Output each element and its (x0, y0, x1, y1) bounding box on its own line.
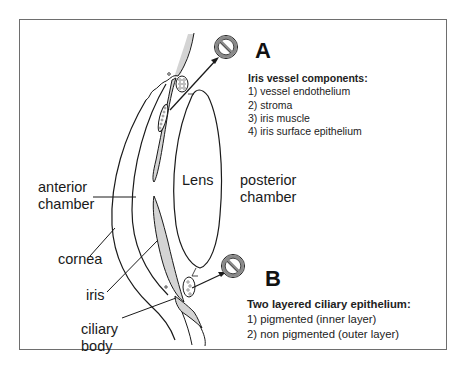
label-anterior-chamber-line2: chamber (38, 196, 94, 213)
label-lens: Lens (182, 172, 213, 189)
panel-a-legend: Iris vessel components: 1) vessel endoth… (248, 72, 368, 138)
lower-small-dot (165, 286, 167, 288)
pointer-a-arrowhead (211, 57, 219, 64)
upper-iris (153, 78, 176, 182)
label-anterior-chamber-line1: anterior (38, 179, 87, 196)
panel-a-item: 4) iris surface epithelium (248, 125, 368, 138)
label-cornea: cornea (58, 251, 102, 268)
sclera-shading (174, 34, 194, 78)
panel-b-title: Two layered ciliary epithelium: (247, 297, 411, 312)
label-posterior-chamber-line2: chamber (240, 189, 296, 206)
ciliary-body-leader (122, 298, 176, 318)
label-ciliary-body-line1: ciliary (81, 321, 118, 338)
panel-b-item: 1) pigmented (inner layer) (247, 312, 411, 327)
panel-a-item: 3) iris muscle (248, 112, 368, 125)
iris-vessel (156, 104, 170, 133)
marker-a: A (255, 40, 271, 62)
panel-b-legend: Two layered ciliary epithelium: 1) pigme… (247, 297, 411, 342)
marker-b: B (265, 268, 281, 290)
ciliary-body (175, 296, 202, 328)
panel-a-title: Iris vessel components: (248, 72, 368, 85)
prohibition-icon-b (222, 255, 245, 278)
panel-b-item: 2) non pigmented (outer layer) (247, 327, 411, 342)
label-iris: iris (86, 287, 105, 304)
panel-a-item: 2) stroma (248, 99, 368, 112)
upper-small-dot (168, 73, 171, 76)
label-ciliary-body-line2: body (81, 338, 112, 355)
lens-zonule-bottom (192, 268, 198, 276)
panel-a-item: 1) vessel endothelium (248, 85, 368, 98)
ciliary-outline-2 (200, 326, 205, 346)
upper-ciliary-process (176, 76, 188, 92)
prohibition-icon-a (215, 36, 238, 59)
label-posterior-chamber-line1: posterior (240, 172, 296, 189)
